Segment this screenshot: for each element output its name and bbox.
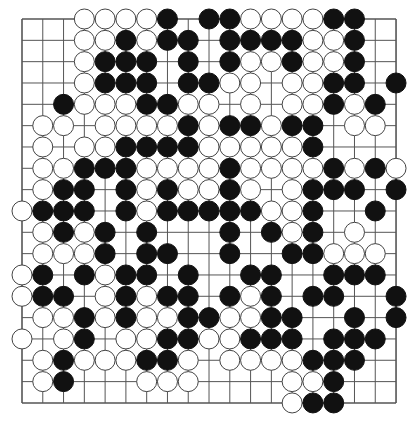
white-stone xyxy=(137,308,157,328)
white-stone xyxy=(282,73,302,93)
black-stone xyxy=(261,222,281,242)
white-stone xyxy=(95,94,115,114)
white-stone xyxy=(282,180,302,200)
black-stone xyxy=(324,393,344,413)
white-stone xyxy=(282,393,302,413)
black-stone xyxy=(220,158,240,178)
black-stone xyxy=(344,329,364,349)
black-stone xyxy=(303,393,323,413)
black-stone xyxy=(33,265,53,285)
white-stone xyxy=(241,94,261,114)
black-stone xyxy=(220,244,240,264)
black-stone xyxy=(241,116,261,136)
black-stone xyxy=(137,52,157,72)
white-stone xyxy=(261,9,281,29)
black-stone xyxy=(324,73,344,93)
white-stone xyxy=(33,244,53,264)
black-stone xyxy=(386,286,406,306)
black-stone xyxy=(74,158,94,178)
white-stone xyxy=(344,116,364,136)
black-stone xyxy=(137,244,157,264)
white-stone xyxy=(178,180,198,200)
white-stone xyxy=(241,137,261,157)
black-stone xyxy=(33,201,53,221)
white-stone xyxy=(137,201,157,221)
white-stone xyxy=(178,372,198,392)
black-stone xyxy=(344,73,364,93)
white-stone xyxy=(74,9,94,29)
black-stone xyxy=(95,158,115,178)
black-stone xyxy=(74,308,94,328)
white-stone xyxy=(220,308,240,328)
black-stone xyxy=(157,137,177,157)
white-stone xyxy=(12,265,32,285)
white-stone xyxy=(137,329,157,349)
black-stone xyxy=(157,286,177,306)
white-stone xyxy=(261,52,281,72)
white-stone xyxy=(178,94,198,114)
white-stone xyxy=(241,350,261,370)
black-stone xyxy=(137,350,157,370)
black-stone xyxy=(178,137,198,157)
black-stone xyxy=(220,201,240,221)
white-stone xyxy=(303,158,323,178)
black-stone xyxy=(241,265,261,285)
white-stone xyxy=(137,372,157,392)
white-stone xyxy=(220,329,240,349)
white-stone xyxy=(241,308,261,328)
white-stone xyxy=(95,308,115,328)
black-stone xyxy=(178,329,198,349)
white-stone xyxy=(137,9,157,29)
white-stone xyxy=(33,116,53,136)
white-stone xyxy=(303,9,323,29)
black-stone xyxy=(95,73,115,93)
black-stone xyxy=(116,73,136,93)
white-stone xyxy=(241,180,261,200)
white-stone xyxy=(303,52,323,72)
white-stone xyxy=(261,201,281,221)
black-stone xyxy=(344,350,364,370)
white-stone xyxy=(116,329,136,349)
black-stone xyxy=(137,137,157,157)
black-stone xyxy=(282,244,302,264)
black-stone xyxy=(95,52,115,72)
white-stone xyxy=(54,158,74,178)
white-stone xyxy=(137,158,157,178)
black-stone xyxy=(116,137,136,157)
white-stone xyxy=(282,201,302,221)
black-stone xyxy=(199,201,219,221)
white-stone xyxy=(157,372,177,392)
black-stone xyxy=(157,244,177,264)
white-stone xyxy=(74,350,94,370)
white-stone xyxy=(324,244,344,264)
white-stone xyxy=(116,116,136,136)
black-stone xyxy=(116,30,136,50)
black-stone xyxy=(344,52,364,72)
black-stone xyxy=(220,286,240,306)
white-stone xyxy=(12,286,32,306)
white-stone xyxy=(137,286,157,306)
white-stone xyxy=(116,350,136,370)
white-stone xyxy=(33,137,53,157)
white-stone xyxy=(282,372,302,392)
black-stone xyxy=(178,308,198,328)
black-stone xyxy=(199,308,219,328)
black-stone xyxy=(386,308,406,328)
white-stone xyxy=(303,372,323,392)
black-stone xyxy=(74,265,94,285)
black-stone xyxy=(282,308,302,328)
black-stone xyxy=(220,222,240,242)
white-stone xyxy=(116,9,136,29)
black-stone xyxy=(261,286,281,306)
black-stone xyxy=(116,265,136,285)
white-stone xyxy=(95,350,115,370)
black-stone xyxy=(344,30,364,50)
white-stone xyxy=(324,30,344,50)
white-stone xyxy=(282,94,302,114)
white-stone xyxy=(116,94,136,114)
white-stone xyxy=(344,222,364,242)
black-stone xyxy=(116,308,136,328)
black-stone xyxy=(178,30,198,50)
black-stone xyxy=(54,372,74,392)
go-board[interactable] xyxy=(0,0,412,422)
